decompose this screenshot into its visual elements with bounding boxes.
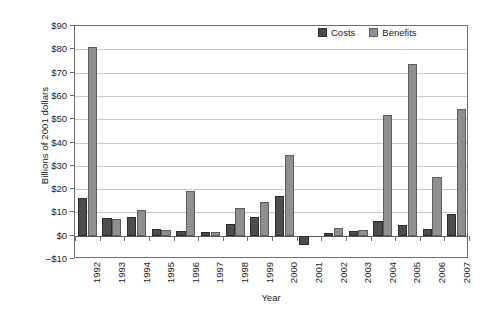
chart-legend: CostsBenefits xyxy=(318,27,417,38)
bar-costs-1998 xyxy=(226,224,235,236)
bar-costs-1999 xyxy=(250,217,259,236)
x-category-label-2001: 2001 xyxy=(313,262,324,283)
bar-costs-2007 xyxy=(447,214,456,236)
x-category-label-1999: 1999 xyxy=(264,262,275,283)
bar-benefits-1993 xyxy=(112,219,121,235)
legend-label: Benefits xyxy=(382,27,416,38)
x-category-label-2005: 2005 xyxy=(411,262,422,283)
x-category-label-2003: 2003 xyxy=(362,262,373,283)
bar-benefits-1992 xyxy=(88,47,97,236)
y-tick-mark xyxy=(70,188,74,189)
y-tick-mark xyxy=(70,258,74,259)
x-category-label-1993: 1993 xyxy=(116,262,127,283)
x-tick-mark xyxy=(444,236,445,241)
x-tick-mark xyxy=(198,236,199,241)
legend-entry-costs: Costs xyxy=(318,27,355,38)
bar-benefits-1996 xyxy=(186,191,195,235)
bar-benefits-1997 xyxy=(211,232,220,235)
x-axis-title: Year xyxy=(74,292,468,303)
y-tick-label: $80 xyxy=(23,43,67,54)
y-tick-label: $50 xyxy=(23,113,67,124)
bar-benefits-2003 xyxy=(358,230,367,236)
y-tick-label: $10 xyxy=(23,206,67,217)
legend-label: Costs xyxy=(331,27,355,38)
bar-benefits-1995 xyxy=(161,230,170,236)
bar-costs-1994 xyxy=(127,217,136,236)
y-tick-label: $0 xyxy=(23,229,67,240)
bar-costs-2003 xyxy=(349,231,358,236)
plot-area xyxy=(74,25,468,258)
y-tick-label: $60 xyxy=(23,89,67,100)
legend-swatch-benefits-icon xyxy=(369,28,378,37)
x-tick-mark xyxy=(346,236,347,241)
bar-benefits-2005 xyxy=(408,64,417,235)
x-tick-mark xyxy=(223,236,224,241)
bar-costs-2001 xyxy=(299,236,308,245)
x-category-label-2007: 2007 xyxy=(461,262,472,283)
y-tick-mark xyxy=(70,95,74,96)
bar-costs-2002 xyxy=(324,233,333,235)
x-tick-mark xyxy=(247,236,248,241)
bar-costs-1997 xyxy=(201,232,210,235)
bar-costs-1993 xyxy=(102,218,111,235)
bar-benefits-2007 xyxy=(457,109,466,236)
bar-chart: Billions of 2001 dollars –$10$0$10$20$30… xyxy=(0,0,482,311)
legend-swatch-costs-icon xyxy=(318,28,327,37)
legend-entry-benefits: Benefits xyxy=(369,27,416,38)
bar-benefits-2002 xyxy=(334,228,343,236)
x-category-label-1996: 1996 xyxy=(190,262,201,283)
x-tick-mark xyxy=(124,236,125,241)
gridline xyxy=(75,49,467,50)
x-tick-mark xyxy=(420,236,421,241)
bar-benefits-1998 xyxy=(235,208,244,236)
bar-costs-1992 xyxy=(78,198,87,235)
bar-benefits-2000 xyxy=(285,155,294,235)
y-tick-mark xyxy=(70,72,74,73)
bar-costs-2005 xyxy=(398,225,407,235)
y-tick-mark xyxy=(70,25,74,26)
x-category-label-1992: 1992 xyxy=(91,262,102,283)
x-tick-mark xyxy=(272,236,273,241)
y-tick-mark xyxy=(70,165,74,166)
y-tick-label: $90 xyxy=(23,20,67,31)
y-tick-label: $40 xyxy=(23,136,67,147)
bar-benefits-1999 xyxy=(260,202,269,236)
x-tick-mark xyxy=(100,236,101,241)
bar-benefits-2004 xyxy=(383,115,392,236)
zero-line xyxy=(75,236,467,237)
x-category-label-1998: 1998 xyxy=(239,262,250,283)
x-tick-mark xyxy=(75,236,76,241)
y-tick-label: $30 xyxy=(23,159,67,170)
bar-costs-2006 xyxy=(423,229,432,236)
y-tick-mark xyxy=(70,235,74,236)
y-tick-mark xyxy=(70,48,74,49)
bar-costs-2000 xyxy=(275,196,284,236)
x-category-label-2002: 2002 xyxy=(338,262,349,283)
x-tick-mark xyxy=(469,236,470,241)
bar-benefits-1994 xyxy=(137,210,146,236)
y-tick-mark xyxy=(70,142,74,143)
x-category-label-2000: 2000 xyxy=(288,262,299,283)
y-tick-label: –$10 xyxy=(23,253,67,264)
y-tick-mark xyxy=(70,211,74,212)
y-tick-mark xyxy=(70,118,74,119)
x-tick-mark xyxy=(174,236,175,241)
x-category-label-1997: 1997 xyxy=(214,262,225,283)
x-tick-mark xyxy=(321,236,322,241)
bar-costs-1996 xyxy=(176,231,185,236)
x-tick-mark xyxy=(371,236,372,241)
y-tick-label: $70 xyxy=(23,66,67,77)
x-category-label-1994: 1994 xyxy=(141,262,152,283)
x-tick-mark xyxy=(149,236,150,241)
x-tick-mark xyxy=(297,236,298,241)
x-tick-mark xyxy=(395,236,396,241)
bar-benefits-2006 xyxy=(432,177,441,235)
x-category-label-2006: 2006 xyxy=(436,262,447,283)
bar-costs-2004 xyxy=(373,221,382,236)
x-category-label-2004: 2004 xyxy=(387,262,398,283)
bar-costs-1995 xyxy=(152,229,161,236)
y-tick-label: $20 xyxy=(23,183,67,194)
x-category-label-1995: 1995 xyxy=(165,262,176,283)
